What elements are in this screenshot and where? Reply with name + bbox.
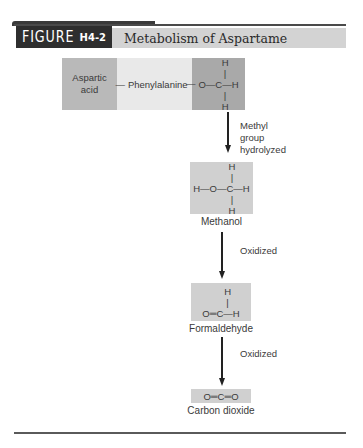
arrow-2-shaft (221, 232, 223, 272)
arrow-1-shaft (227, 112, 229, 146)
methyl-ester-structure: H | O—C—H | H (198, 57, 238, 112)
formaldehyde-label: Formaldehyde (181, 323, 261, 334)
methyl-ester-block: — H | O—C—H | H (192, 58, 245, 110)
step-2-note: Oxidized (240, 245, 277, 257)
step-1-note: Methyl group hydrolyzed (240, 120, 286, 156)
arrow-3-shaft (221, 337, 223, 379)
methanol-label: Methanol (190, 216, 253, 227)
methanol-box: H | H—O—C—H | H (190, 162, 253, 214)
aspartic-acid-block: Aspartic acid (62, 58, 117, 110)
arrow-2-head (219, 271, 225, 279)
bond-2: — (186, 78, 196, 89)
aspartic-acid-label: Aspartic acid (72, 72, 106, 96)
formaldehyde-box: H | O═C—H (191, 283, 251, 321)
step-3-note: Oxidized (240, 348, 277, 360)
carbon-dioxide-label: Carbon dioxide (176, 405, 266, 416)
phenylalanine-block: — Phenylalanine (117, 58, 192, 110)
arrow-1-head (225, 145, 231, 153)
methanol-structure: H | H—O—C—H | H (193, 161, 249, 216)
carbon-dioxide-box: O═C═O (191, 389, 251, 403)
figure-number: H4-2 (80, 32, 106, 43)
arrow-3-head (219, 378, 225, 386)
phenylalanine-label: Phenylalanine (128, 79, 188, 90)
footer-rule (14, 432, 346, 434)
bond-1: — (115, 79, 125, 90)
formaldehyde-structure: H | O═C—H (202, 286, 239, 319)
figure-word: FIGURE (22, 28, 74, 46)
carbon-dioxide-structure: O═C═O (203, 391, 238, 402)
figure-title: Metabolism of Aspartame (112, 28, 346, 48)
figure-label: FIGURE H4-2 (16, 26, 112, 48)
